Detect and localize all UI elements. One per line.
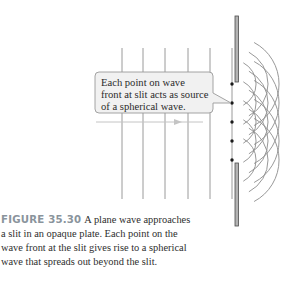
source-point-dot: [230, 82, 233, 85]
opaque-plate: [235, 16, 239, 226]
arrow-head-icon: [174, 119, 182, 125]
source-point-dot: [230, 158, 233, 161]
caption-line-1: FIGURE 35.30A plane wave approaches: [1, 213, 291, 227]
figure-caption: FIGURE 35.30A plane wave approaches a sl…: [1, 213, 291, 269]
plate-upper-segment: [235, 16, 239, 82]
propagation-arrow-icon: [96, 119, 203, 125]
wavelet-arc: [249, 71, 268, 135]
wavelet-arc: [243, 82, 256, 124]
wavelet-arc: [243, 63, 256, 105]
caption-line-4: wave that spreads out beyond the slit.: [1, 255, 291, 269]
callout-line-1: Each point on wave: [101, 77, 185, 88]
callout-box: Each point on wave front at slit acts as…: [95, 72, 231, 113]
caption-line-3: wave front at the slit gives rise to a s…: [1, 241, 291, 255]
wavelet-arc: [249, 109, 268, 173]
source-point-dot: [230, 120, 233, 123]
spherical-wavelets: [243, 43, 279, 202]
caption-text-1: A plane wave approaches: [84, 214, 190, 225]
source-point-dot: [230, 139, 233, 142]
wavelet-arc: [249, 90, 268, 154]
wavelet-arc: [243, 139, 256, 181]
wavelet-arc: [243, 120, 256, 162]
wavelet-arc: [249, 128, 268, 192]
caption-line-2: a slit in an opaque plate. Each point on…: [1, 227, 291, 241]
wavelet-arc: [243, 101, 256, 143]
figure-label: FIGURE 35.30: [1, 214, 81, 225]
wavelet-arc: [249, 52, 268, 116]
callout-line-2: front at slit acts as source: [101, 89, 209, 100]
callout-line-3: of a spherical wave.: [101, 101, 186, 112]
